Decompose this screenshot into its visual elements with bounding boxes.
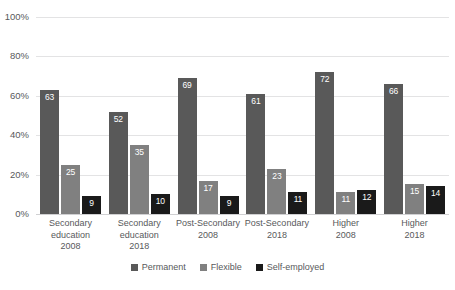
bar-value-label: 17: [199, 184, 218, 193]
bar-value-label: 12: [357, 193, 376, 202]
legend-item-permanent[interactable]: Permanent: [131, 262, 186, 272]
bar-value-label: 15: [405, 187, 424, 196]
legend-swatch-icon: [131, 264, 138, 271]
bar-value-label: 23: [267, 172, 286, 181]
bar-value-label: 69: [178, 81, 197, 90]
bar-self-employed[interactable]: 14: [426, 186, 445, 214]
bar-value-label: 66: [384, 87, 403, 96]
bar-flexible[interactable]: 15: [405, 184, 424, 214]
x-axis-category-label: Post-Secondary 2008: [174, 218, 242, 262]
x-axis-category-label: Higher 2018: [381, 218, 449, 262]
bar-flexible[interactable]: 23: [267, 169, 286, 214]
y-axis-tick-20: 20%: [10, 170, 29, 180]
bar-permanent[interactable]: 69: [178, 78, 197, 214]
bar-value-label: 9: [82, 199, 101, 208]
bar-flexible[interactable]: 17: [199, 181, 218, 214]
bar-self-employed[interactable]: 9: [82, 196, 101, 214]
legend-label: Permanent: [142, 262, 186, 272]
bar-group: 72 11 12: [315, 17, 376, 214]
x-axis-category-label: Post-Secondary 2018: [243, 218, 311, 262]
legend-swatch-icon: [256, 264, 263, 271]
bar-permanent[interactable]: 63: [40, 90, 59, 214]
x-axis-labels: Secondary education 2008 Secondary educa…: [36, 218, 449, 262]
bar-value-label: 52: [109, 115, 128, 124]
bar-flexible[interactable]: 25: [61, 165, 80, 214]
bar-value-label: 9: [220, 199, 239, 208]
bar-permanent[interactable]: 61: [246, 94, 265, 214]
legend-item-self-employed[interactable]: Self-employed: [256, 262, 325, 272]
y-axis-tick-60: 60%: [10, 91, 29, 101]
bar-value-label: 11: [336, 195, 355, 204]
bar-group: 63 25 9: [40, 17, 101, 214]
x-axis-category-label: Secondary education 2018: [105, 218, 173, 262]
legend-label: Flexible: [211, 262, 242, 272]
y-axis-tick-100: 100%: [5, 12, 29, 22]
bar-value-label: 61: [246, 97, 265, 106]
bar-self-employed[interactable]: 12: [357, 190, 376, 214]
y-axis-tick-0: 0%: [15, 209, 29, 219]
bar-value-label: 14: [426, 189, 445, 198]
bar-self-employed[interactable]: 11: [288, 192, 307, 214]
bar-group: 66 15 14: [384, 17, 445, 214]
bar-chart: 100% 80% 60% 40% 20% 0% 63 25 9 52 35: [0, 0, 455, 290]
bar-permanent[interactable]: 66: [384, 84, 403, 214]
y-axis-tick-40: 40%: [10, 130, 29, 140]
x-axis-category-label: Higher 2008: [312, 218, 380, 262]
bar-group: 61 23 11: [246, 17, 307, 214]
y-axis-tick-80: 80%: [10, 51, 29, 61]
bar-value-label: 10: [151, 197, 170, 206]
gridline-0: [36, 214, 449, 215]
bar-value-label: 11: [288, 195, 307, 204]
bar-self-employed[interactable]: 10: [151, 194, 170, 214]
bar-value-label: 63: [40, 93, 59, 102]
bar-group: 52 35 10: [109, 17, 170, 214]
chart-legend: Permanent Flexible Self-employed: [0, 262, 455, 272]
legend-label: Self-employed: [267, 262, 325, 272]
y-axis-labels: 100% 80% 60% 40% 20% 0%: [0, 0, 34, 231]
legend-swatch-icon: [200, 264, 207, 271]
bar-self-employed[interactable]: 9: [220, 196, 239, 214]
bar-permanent[interactable]: 72: [315, 72, 334, 214]
x-axis-category-label: Secondary education 2008: [36, 218, 104, 262]
bar-groups: 63 25 9 52 35 10 69 17: [36, 17, 449, 214]
bar-group: 69 17 9: [178, 17, 239, 214]
legend-item-flexible[interactable]: Flexible: [200, 262, 242, 272]
bar-value-label: 25: [61, 168, 80, 177]
bar-permanent[interactable]: 52: [109, 112, 128, 214]
bar-value-label: 35: [130, 148, 149, 157]
bar-flexible[interactable]: 11: [336, 192, 355, 214]
bar-value-label: 72: [315, 75, 334, 84]
bar-flexible[interactable]: 35: [130, 145, 149, 214]
